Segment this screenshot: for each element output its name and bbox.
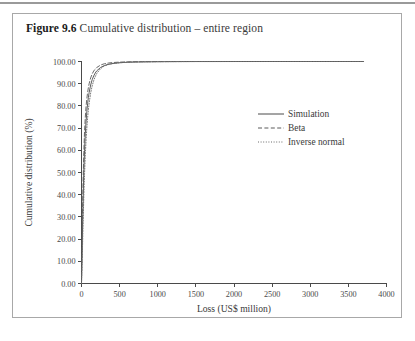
series-simulation	[82, 62, 364, 284]
series-beta	[82, 62, 364, 284]
x-tick-label: 1500	[188, 290, 204, 299]
x-tick-label: 500	[113, 290, 125, 299]
y-tick-label: 100.00	[53, 58, 76, 67]
series-inverse-normal	[82, 62, 364, 284]
cumulative-distribution-chart: 0.0010.0020.0030.0040.0050.0060.0070.008…	[0, 0, 415, 341]
x-tick-label: 2000	[226, 290, 242, 299]
legend-label-inverse-normal: Inverse normal	[288, 137, 345, 147]
x-tick-label: 4000	[378, 290, 394, 299]
y-tick-label: 20.00	[57, 235, 75, 244]
y-tick-label: 90.00	[57, 80, 75, 89]
axis-lines	[82, 62, 387, 284]
y-tick-label: 0.00	[61, 280, 75, 289]
x-tick-label: 0	[79, 290, 83, 299]
x-tick-label: 3000	[302, 290, 318, 299]
y-tick-label: 70.00	[57, 124, 75, 133]
chart-plot: 0.0010.0020.0030.0040.0050.0060.0070.008…	[0, 0, 415, 341]
legend-label-beta: Beta	[288, 123, 306, 133]
y-tick-label: 30.00	[57, 213, 75, 222]
x-axis-title: Loss (US$ million)	[197, 303, 271, 315]
legend-label-simulation: Simulation	[288, 109, 329, 119]
y-tick-label: 60.00	[57, 146, 75, 155]
y-tick-label: 80.00	[57, 102, 75, 111]
x-tick-label: 2500	[264, 290, 280, 299]
x-tick-label: 1000	[150, 290, 166, 299]
y-tick-label: 10.00	[57, 257, 75, 266]
y-axis-title: Cumulative distribution (%)	[23, 118, 35, 226]
y-tick-label: 40.00	[57, 191, 75, 200]
y-tick-label: 50.00	[57, 169, 75, 178]
x-tick-label: 3500	[340, 290, 356, 299]
